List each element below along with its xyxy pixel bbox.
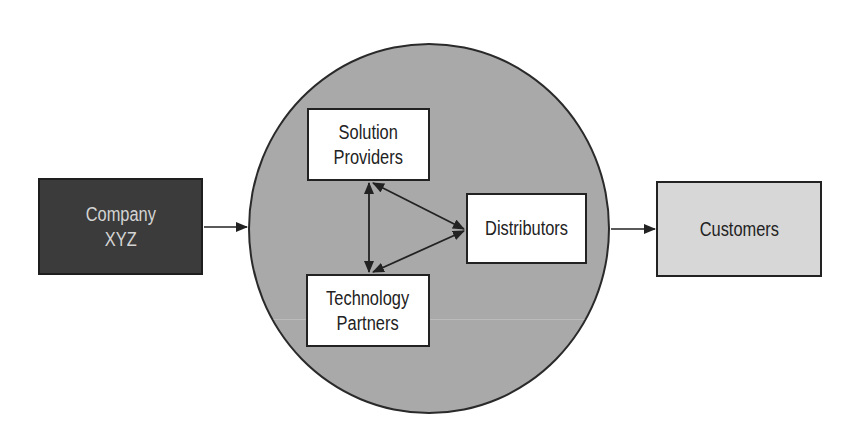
node-company-xyz: Company XYZ — [38, 178, 203, 275]
node-technology-partners-label: Technology Partners — [327, 286, 410, 336]
node-company-label: Company XYZ — [85, 202, 155, 252]
diagram-canvas: Company XYZ Solution Providers Technolog… — [0, 0, 864, 435]
node-customers: Customers — [656, 181, 822, 277]
node-technology-partners: Technology Partners — [306, 274, 430, 347]
node-solution-providers-label: Solution Providers — [334, 120, 403, 170]
node-distributors-label: Distributors — [485, 216, 568, 241]
node-customers-label: Customers — [699, 217, 778, 242]
node-solution-providers: Solution Providers — [307, 108, 430, 181]
node-distributors: Distributors — [466, 193, 587, 264]
